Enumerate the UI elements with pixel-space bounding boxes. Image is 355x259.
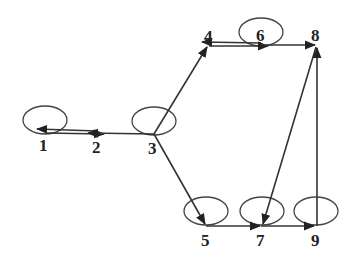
node-6-label: 6	[256, 26, 265, 45]
node-3-label: 3	[148, 139, 157, 158]
node-7-label: 7	[256, 231, 265, 250]
node-9-label: 9	[311, 231, 320, 250]
node-5-label: 5	[201, 231, 210, 250]
node-8-label: 8	[311, 26, 320, 45]
self-loop-node-3	[132, 107, 176, 135]
edge-2-1	[37, 129, 97, 131]
self-loop-node-7	[240, 197, 284, 225]
edge-3-5	[154, 134, 205, 224]
edge-3-2	[88, 133, 154, 134]
edge-3-4	[154, 47, 207, 134]
node-2-label: 2	[92, 138, 101, 157]
self-loop-node-5	[184, 197, 228, 225]
node-1-label: 1	[39, 136, 48, 155]
graph-canvas: 1 2 3 4 6 8 5 7 9	[0, 0, 355, 259]
self-loop-node-9	[294, 197, 338, 225]
node-4-label: 4	[204, 27, 213, 46]
